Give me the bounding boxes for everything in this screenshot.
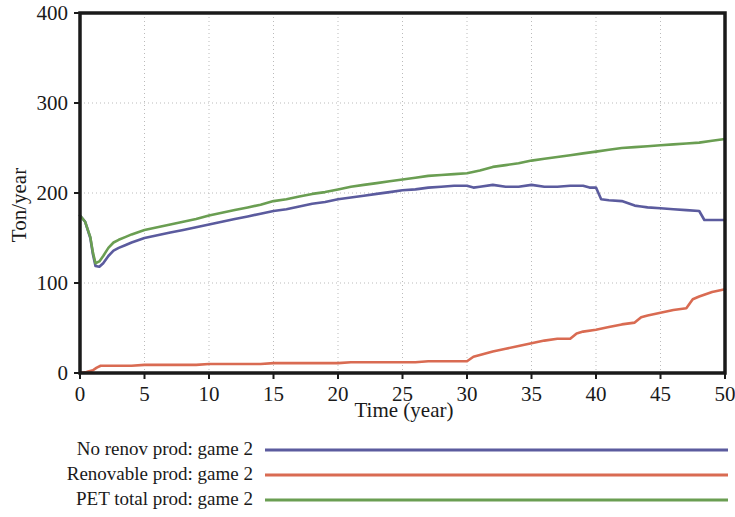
y-tick-label: 0	[58, 361, 69, 385]
x-tick-label: 40	[586, 382, 607, 406]
y-tick-label: 300	[37, 91, 69, 115]
x-axis-title: Time (year)	[355, 398, 454, 422]
chart-figure: 05101520253035404550 4003002001000 Time …	[0, 0, 735, 517]
y-tick-label: 400	[37, 1, 69, 25]
x-tick-label: 35	[521, 382, 542, 406]
legend-label-2: Renovable prod: game 2	[67, 463, 253, 484]
chart-canvas: 05101520253035404550 4003002001000 Time …	[0, 0, 735, 517]
x-tick-label: 50	[715, 382, 735, 406]
y-axis-title: Ton/year	[7, 168, 31, 242]
x-tick-label: 20	[328, 382, 349, 406]
x-tick-label: 10	[199, 382, 220, 406]
x-tick-label: 5	[139, 382, 150, 406]
x-tick-label: 15	[263, 382, 284, 406]
x-tick-label: 45	[650, 382, 671, 406]
legend-label-1: No renov prod: game 2	[77, 438, 253, 459]
x-tick-label: 30	[457, 382, 478, 406]
y-tick-label: 200	[37, 181, 69, 205]
y-tick-label: 100	[37, 271, 69, 295]
legend-label-3: PET total prod: game 2	[76, 488, 253, 509]
x-tick-label: 0	[75, 382, 86, 406]
